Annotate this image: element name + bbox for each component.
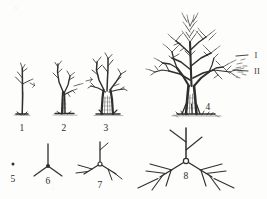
tree-stage-2 [53,61,92,115]
tree-stage-4 [146,13,248,117]
label-stage-4: 4 [206,103,211,113]
label-schema-7: 7 [98,181,103,191]
label-branch-order-ii: II [254,67,260,76]
figure-canvas: 1 2 3 4 5 6 7 8 I II [0,0,267,199]
schema-7 [76,142,122,180]
schema-5 [12,163,15,166]
label-stage-3: 3 [104,124,109,134]
label-stage-1: 1 [20,124,25,134]
tree-stage-3 [88,53,127,116]
drawing-layer [0,0,267,199]
label-schema-8: 8 [184,172,189,182]
tree-stage-1 [14,63,35,115]
label-branch-order-i: I [254,51,257,60]
schema-6 [34,144,62,176]
label-stage-2: 2 [62,124,67,134]
label-schema-5: 5 [11,175,16,185]
label-schema-6: 6 [46,177,51,187]
